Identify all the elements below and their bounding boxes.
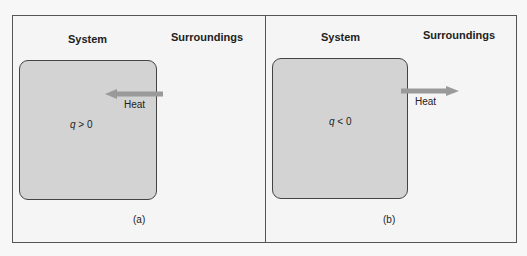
heat-label: Heat (415, 96, 436, 107)
heat-label: Heat (124, 99, 145, 110)
caption-b: (b) (383, 214, 395, 225)
system-box (272, 58, 408, 199)
system-label: System (321, 31, 360, 43)
surroundings-label: Surroundings (171, 31, 243, 43)
q-value: q < 0 (329, 116, 352, 127)
caption-a: (a) (133, 214, 145, 225)
panel-divider (265, 15, 266, 243)
system-label: System (68, 33, 107, 45)
surroundings-label: Surroundings (423, 29, 495, 41)
q-value: q > 0 (70, 119, 93, 130)
system-box (19, 60, 157, 200)
